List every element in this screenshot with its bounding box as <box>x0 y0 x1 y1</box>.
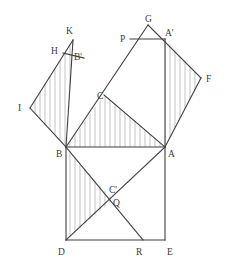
segment-B-C <box>66 25 148 147</box>
vertex-label-I: I <box>18 104 21 114</box>
vertex-label-E: E <box>167 248 173 258</box>
vertex-label-A-prime: A' <box>165 29 174 39</box>
geometry-figure: KGA'PHB'FCIBAC'QDRE <box>0 0 229 273</box>
vertex-label-H: H <box>51 47 58 57</box>
segment-B-K <box>66 40 73 147</box>
vertex-label-R: R <box>136 248 142 258</box>
hatch-middle-B-C-A <box>70 93 165 149</box>
segment-C-A <box>104 95 165 147</box>
vertex-label-K: K <box>66 27 73 37</box>
vertex-label-A: A <box>168 150 175 160</box>
vertex-label-Q: Q <box>113 199 120 209</box>
vertex-label-C-prime: C' <box>109 186 117 196</box>
segment-G-F <box>148 25 201 78</box>
segment-I-B <box>30 108 66 147</box>
vertex-label-B-prime: B' <box>74 53 82 63</box>
vertex-label-D: D <box>58 248 65 258</box>
vertex-label-C: C <box>97 92 103 102</box>
vertex-label-B: B <box>56 150 62 160</box>
vertex-label-P: P <box>120 35 125 45</box>
segment-F-A <box>165 78 201 147</box>
vertex-label-F: F <box>206 75 211 85</box>
vertex-label-G: G <box>145 15 152 25</box>
segment-B-Q <box>66 147 143 240</box>
geometry-canvas <box>0 0 229 273</box>
hatch-right-Ap-F-A <box>165 37 200 149</box>
